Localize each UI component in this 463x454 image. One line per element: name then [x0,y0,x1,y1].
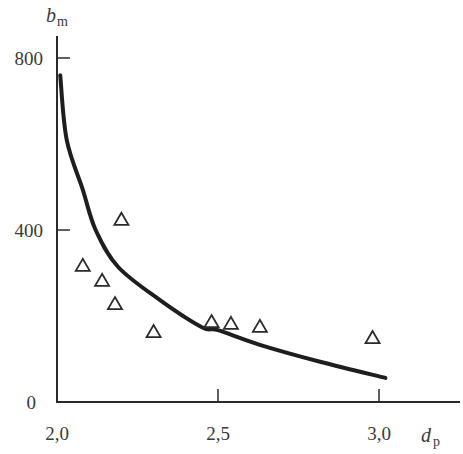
triangle-marker [147,325,161,337]
triangle-marker [205,315,219,327]
chart: 800 400 0 2,0 2,5 3,0 b m d p [0,0,463,454]
triangle-marker [114,213,128,225]
data-markers [76,213,380,343]
triangle-marker [224,317,238,329]
fitted-curve [60,75,385,378]
triangle-marker [95,274,109,286]
svg-text:m: m [57,14,68,29]
triangle-marker [108,297,122,309]
svg-text:d: d [421,424,432,446]
triangle-marker [366,331,380,343]
x-tick-label-2-5: 2,5 [206,423,230,444]
svg-text:p: p [433,434,440,449]
y-tick-label-800: 800 [15,48,44,69]
y-tick-label-0: 0 [27,392,37,413]
x-tick-label-3-0: 3,0 [367,423,391,444]
x-axis-label: d p [421,424,440,449]
triangle-marker [253,320,267,332]
triangle-marker [76,259,90,271]
x-tick-label-2-0: 2,0 [45,423,69,444]
y-axis-label: b m [46,4,68,29]
svg-text:b: b [46,4,56,26]
y-tick-label-400: 400 [15,220,44,241]
